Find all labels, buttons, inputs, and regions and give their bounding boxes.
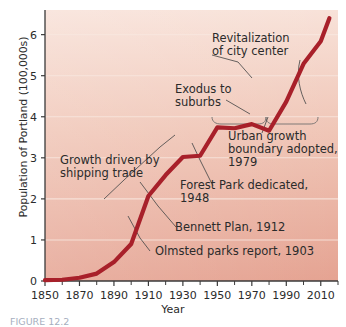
annotation-text: Bennett Plan, 1912 bbox=[175, 220, 285, 234]
x-tick-label: 1870 bbox=[65, 289, 93, 302]
x-tick-label: 1990 bbox=[272, 289, 300, 302]
x-tick-label: 1910 bbox=[134, 289, 162, 302]
x-tick-label: 2010 bbox=[307, 289, 335, 302]
annotation-text: shipping trade bbox=[60, 166, 143, 180]
y-tick-label: 1 bbox=[30, 234, 37, 247]
y-tick-label: 6 bbox=[30, 29, 37, 42]
y-tick-label: 5 bbox=[30, 70, 37, 83]
x-tick-label: 1890 bbox=[100, 289, 128, 302]
x-tick-label: 1930 bbox=[169, 289, 197, 302]
annotation-text: suburbs bbox=[175, 95, 221, 109]
y-tick-label: 2 bbox=[30, 193, 37, 206]
x-tick-label: 1950 bbox=[203, 289, 231, 302]
annotation-text: of city center bbox=[212, 44, 288, 58]
figure-caption: FIGURE 12.2 bbox=[10, 316, 346, 327]
y-axis-ticks: 0123456 bbox=[30, 29, 45, 288]
annotation-text: Growth driven by bbox=[60, 153, 160, 167]
x-axis-title: Year bbox=[0, 303, 346, 316]
annotation-text: Urban growth bbox=[228, 129, 306, 143]
x-tick-label: 1970 bbox=[238, 289, 266, 302]
y-tick-label: 4 bbox=[30, 111, 37, 124]
annotation-olmsted-parks: Olmsted parks report, 1903 bbox=[155, 244, 314, 258]
annotation-text: Olmsted parks report, 1903 bbox=[155, 244, 314, 258]
annotation-text: boundary adopted, bbox=[228, 142, 338, 156]
annotation-text: Revitalization bbox=[212, 31, 290, 45]
annotation-text: 1979 bbox=[228, 155, 257, 169]
y-tick-label: 3 bbox=[30, 152, 37, 165]
y-tick-label: 0 bbox=[30, 275, 37, 288]
annotation-revitalization: Revitalizationof city center bbox=[212, 31, 290, 58]
annotation-text: Exodus to bbox=[175, 82, 232, 96]
annotation-bennett-plan: Bennett Plan, 1912 bbox=[175, 220, 285, 234]
y-axis-title: Population of Portland (100,000s) bbox=[17, 48, 30, 218]
annotation-text: Forest Park dedicated, bbox=[180, 178, 308, 192]
x-tick-label: 1850 bbox=[31, 289, 59, 302]
annotation-text: 1948 bbox=[180, 191, 209, 205]
x-axis-ticks: 185018701890191019301950197019902010 bbox=[31, 281, 338, 302]
